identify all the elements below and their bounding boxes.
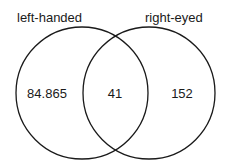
region-value-intersection: 41	[108, 86, 122, 101]
region-value-right-only: 152	[171, 86, 193, 101]
set-label-right-eyed: right-eyed	[145, 10, 203, 25]
set-circle-right-eyed	[83, 27, 215, 159]
venn-diagram: left-handed right-eyed 84.865 41 152	[0, 0, 225, 165]
region-value-left-only: 84.865	[27, 86, 67, 101]
set-label-left-handed: left-handed	[17, 10, 82, 25]
